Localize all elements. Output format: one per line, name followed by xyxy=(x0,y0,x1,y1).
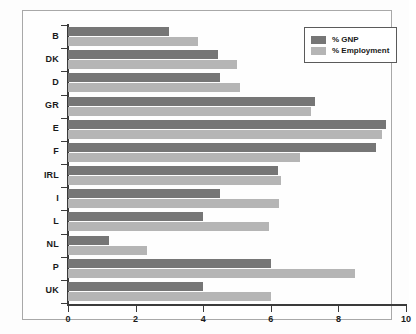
x-axis-tick xyxy=(271,306,272,312)
chart-category-group xyxy=(68,73,406,92)
y-axis-category-label: I xyxy=(56,193,59,203)
chart-category-group xyxy=(68,212,406,231)
chart-legend: % GNP% Employment xyxy=(304,27,397,63)
bar-employment xyxy=(68,83,240,92)
y-axis-category-label: F xyxy=(53,146,59,156)
chart-category-group xyxy=(68,143,406,162)
bar-gnp xyxy=(68,97,315,106)
x-axis-tick-label: 4 xyxy=(193,314,213,324)
y-axis-category-label: IRL xyxy=(44,170,59,180)
bar-employment xyxy=(68,130,382,139)
y-axis-category-label: E xyxy=(53,123,59,133)
bar-gnp xyxy=(68,73,220,82)
bar-employment xyxy=(68,37,198,46)
y-axis-category-label: D xyxy=(52,77,59,87)
chart-category-group xyxy=(68,120,406,139)
bar-gnp xyxy=(68,282,203,291)
x-axis-tick-label: 0 xyxy=(58,314,78,324)
bar-gnp xyxy=(68,212,203,221)
y-axis-category-label: DK xyxy=(46,54,59,64)
chart-category-group xyxy=(68,97,406,116)
bar-gnp xyxy=(68,50,218,59)
bar-employment xyxy=(68,269,355,278)
x-axis-tick xyxy=(68,306,69,312)
x-axis-tick xyxy=(338,306,339,312)
bar-gnp xyxy=(68,236,109,245)
legend-label: % Employment xyxy=(332,46,389,55)
y-axis-category-label: GR xyxy=(45,100,59,110)
bar-employment xyxy=(68,222,269,231)
x-axis-tick xyxy=(203,306,204,312)
x-axis-tick xyxy=(406,306,407,312)
bar-employment xyxy=(68,107,311,116)
bar-gnp xyxy=(68,189,220,198)
y-axis-category-label: P xyxy=(53,262,59,272)
bar-employment xyxy=(68,199,279,208)
bar-employment xyxy=(68,246,147,255)
x-axis-tick-label: 10 xyxy=(396,314,416,324)
bar-employment xyxy=(68,153,300,162)
x-axis-tick xyxy=(136,306,137,312)
x-axis-tick-label: 8 xyxy=(328,314,348,324)
bar-employment xyxy=(68,292,271,301)
bar-gnp xyxy=(68,259,271,268)
legend-swatch-icon xyxy=(311,47,326,55)
x-axis-tick-label: 2 xyxy=(126,314,146,324)
y-axis-category-label: B xyxy=(52,31,59,41)
bar-gnp xyxy=(68,166,278,175)
legend-item: % Employment xyxy=(311,46,389,55)
plot-area xyxy=(68,25,406,303)
plot-frame: BDKDGREFIRLILNLPUK 0246810 % GNP% Employ… xyxy=(22,10,392,320)
x-axis-tick-label: 6 xyxy=(261,314,281,324)
bar-employment xyxy=(68,176,281,185)
chart-category-group xyxy=(68,166,406,185)
legend-swatch-icon xyxy=(311,36,326,44)
x-axis-line xyxy=(67,304,407,306)
bar-gnp xyxy=(68,27,169,36)
chart-category-group xyxy=(68,259,406,278)
chart-category-group xyxy=(68,236,406,255)
legend-label: % GNP xyxy=(332,35,359,44)
chart-category-group xyxy=(68,282,406,301)
y-axis-category-label: NL xyxy=(47,239,59,249)
bar-gnp xyxy=(68,120,386,129)
chart-category-group xyxy=(68,189,406,208)
bar-employment xyxy=(68,60,237,69)
legend-item: % GNP xyxy=(311,35,389,44)
y-axis-category-label: L xyxy=(53,216,59,226)
y-axis-category-label: UK xyxy=(46,285,59,295)
bar-gnp xyxy=(68,143,376,152)
